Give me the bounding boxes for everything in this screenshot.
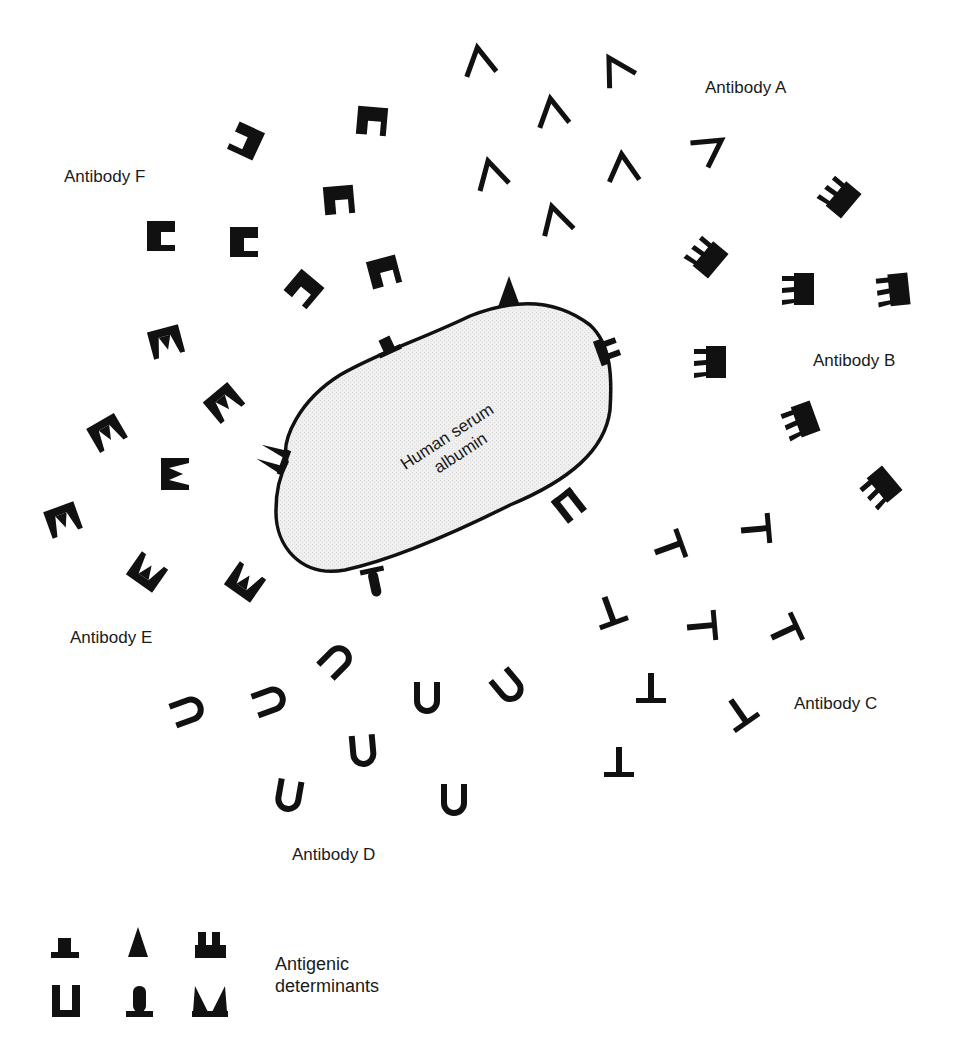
antibody-d-icon: [251, 687, 285, 716]
antibody-d-icon: [318, 644, 353, 679]
antibody-a-icon: [540, 98, 572, 130]
antibody-c-icon: [686, 610, 719, 643]
antibody-b-icon: [875, 272, 910, 307]
u-bracket-determinant-icon: [52, 985, 80, 1017]
antibody-e-icon: [161, 458, 189, 490]
legend: Antigenic determinants: [51, 927, 379, 1017]
antibody-f-icon: [356, 106, 388, 137]
antibody-b-icon: [782, 273, 814, 305]
antibody-e-icon: [126, 551, 168, 592]
antibody-group-f: Antibody F: [64, 106, 402, 310]
surface-determinant-rounded-post-icon: [360, 566, 390, 599]
antibody-f-icon: [147, 221, 175, 251]
antibody-e-icon: [224, 561, 266, 602]
antibody-e-icon: [43, 501, 83, 538]
surface-determinant-triangle-icon: [498, 276, 519, 307]
antibody-c-icon: [604, 747, 634, 777]
antibody-a-icon: [594, 52, 636, 94]
antibody-e-icon: [147, 324, 185, 359]
antibody-d-icon: [169, 697, 203, 726]
antibody-c-icon: [765, 611, 805, 651]
surface-determinant-u-bracket-icon: [551, 487, 587, 524]
antibody-e-label: Antibody E: [70, 628, 152, 647]
legend-label: Antigenic determinants: [275, 954, 379, 996]
antibody-d-label: Antibody D: [292, 845, 375, 864]
antibody-c-icon: [740, 513, 773, 546]
antibody-f-icon: [366, 255, 402, 290]
triangle-determinant-icon: [128, 927, 148, 957]
rounded-post-determinant-icon: [126, 986, 153, 1017]
antibody-b-icon: [816, 173, 861, 218]
antibody-group-d: Antibody D: [169, 644, 524, 864]
v-notch-determinant-icon: [192, 986, 228, 1017]
antibody-a-icon: [467, 47, 499, 79]
antibody-d-icon: [444, 784, 464, 813]
antibody-a-label: Antibody A: [705, 78, 787, 97]
antibody-f-icon: [323, 185, 355, 216]
antigen-albumin: Human serum albumin: [254, 276, 622, 599]
antibody-a-icon: [602, 151, 640, 189]
antibody-group-b: Antibody B: [683, 173, 910, 510]
antibody-c-icon: [650, 528, 688, 566]
antibody-d-icon: [417, 682, 437, 711]
antibody-specificity-diagram: Human serum albumin Antibody A Antibody …: [0, 0, 970, 1060]
antibody-f-icon: [227, 121, 265, 160]
antibody-b-icon: [683, 233, 728, 278]
antibody-group-e: Antibody E: [43, 324, 266, 647]
antibody-a-icon: [534, 203, 574, 243]
antibody-d-icon: [277, 778, 302, 810]
antibody-b-icon: [694, 346, 726, 378]
antibody-group-c: Antibody C: [590, 513, 877, 777]
top-hat-determinant-icon: [51, 938, 79, 958]
antibody-f-label: Antibody F: [64, 167, 145, 186]
antibody-a-icon: [480, 161, 509, 191]
antibody-c-icon: [636, 673, 666, 703]
antibody-b-icon: [857, 465, 902, 510]
antibody-b-icon: [779, 400, 820, 441]
antibody-f-icon: [284, 269, 325, 310]
antibody-f-icon: [230, 227, 258, 257]
antibody-d-icon: [491, 668, 525, 703]
antibody-d-icon: [352, 734, 374, 765]
antibody-c-icon: [719, 691, 761, 733]
antibody-c-label: Antibody C: [794, 694, 877, 713]
antibody-e-icon: [203, 382, 246, 424]
antibody-e-icon: [86, 413, 128, 453]
antibody-group-a: Antibody A: [467, 47, 787, 243]
antibody-c-icon: [590, 592, 628, 630]
double-tab-determinant-icon: [195, 932, 226, 958]
antibody-a-icon: [690, 133, 728, 171]
antibody-b-label: Antibody B: [813, 351, 895, 370]
